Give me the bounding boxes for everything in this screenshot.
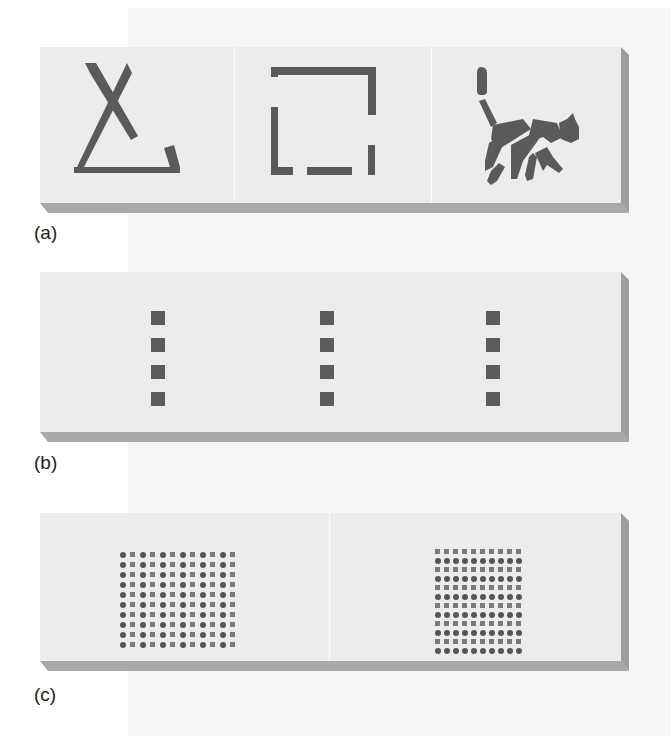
- dot-circle: [435, 630, 441, 636]
- dot-circle: [160, 602, 166, 608]
- dot-square: [489, 549, 494, 554]
- dot-circle: [180, 632, 186, 638]
- dot-circle: [516, 594, 522, 600]
- dot-circle: [200, 592, 206, 598]
- dot-grid-rows: [435, 549, 535, 669]
- dot-square: [507, 639, 512, 644]
- proximity-square: [151, 392, 165, 406]
- dot-square: [130, 642, 135, 647]
- dot-square: [507, 603, 512, 608]
- dot-circle: [140, 562, 146, 568]
- dot-circle: [507, 648, 513, 654]
- dot-circle: [516, 576, 522, 582]
- dot-circle: [140, 592, 146, 598]
- panel-c-bottom-edge: [40, 661, 629, 671]
- dot-square: [480, 639, 485, 644]
- dot-circle: [444, 612, 450, 618]
- dot-square: [516, 567, 521, 572]
- dot-square: [210, 552, 215, 557]
- dot-circle: [507, 576, 513, 582]
- panel-a-bottom-edge: [40, 203, 629, 213]
- dot-circle: [220, 602, 226, 608]
- dot-circle: [462, 630, 468, 636]
- dot-square: [150, 552, 155, 557]
- dot-circle: [471, 558, 477, 564]
- dot-square: [507, 621, 512, 626]
- panel-b-bottom-edge: [40, 432, 629, 442]
- dot-circle: [498, 576, 504, 582]
- panel-c-side-edge: [621, 513, 629, 671]
- dot-square: [435, 639, 440, 644]
- dot-circle: [120, 582, 126, 588]
- proximity-square: [486, 311, 500, 325]
- dot-circle: [220, 592, 226, 598]
- dot-square: [453, 585, 458, 590]
- proximity-square: [151, 365, 165, 379]
- dot-circle: [453, 594, 459, 600]
- dot-square: [516, 603, 521, 608]
- dot-circle: [471, 576, 477, 582]
- dot-circle: [220, 562, 226, 568]
- dot-circle: [444, 648, 450, 654]
- dot-square: [170, 552, 175, 557]
- proximity-square: [320, 338, 334, 352]
- dot-square: [210, 642, 215, 647]
- dot-circle: [489, 648, 495, 654]
- dot-square: [230, 562, 235, 567]
- dot-square: [190, 632, 195, 637]
- panel-c: [40, 513, 621, 661]
- dot-square: [462, 585, 467, 590]
- dot-circle: [140, 642, 146, 648]
- dot-square: [230, 602, 235, 607]
- dot-circle: [453, 558, 459, 564]
- dot-circle: [200, 582, 206, 588]
- dot-circle: [120, 622, 126, 628]
- dot-square: [130, 562, 135, 567]
- dot-square: [210, 632, 215, 637]
- broken-triangle-icon: [76, 61, 176, 181]
- dot-square: [210, 622, 215, 627]
- dot-circle: [489, 594, 495, 600]
- dot-square: [498, 567, 503, 572]
- dot-square: [480, 621, 485, 626]
- dot-square: [190, 602, 195, 607]
- dot-circle: [220, 572, 226, 578]
- dot-circle: [507, 558, 513, 564]
- panel-b-side-edge: [621, 272, 629, 442]
- proximity-square: [151, 311, 165, 325]
- dot-square: [489, 603, 494, 608]
- dot-circle: [435, 594, 441, 600]
- dot-circle: [462, 612, 468, 618]
- tile-divider: [431, 47, 432, 203]
- dot-circle: [180, 572, 186, 578]
- proximity-square: [151, 338, 165, 352]
- dot-circle: [200, 642, 206, 648]
- dot-circle: [160, 582, 166, 588]
- dot-circle: [480, 594, 486, 600]
- dot-circle: [480, 612, 486, 618]
- dot-square: [210, 562, 215, 567]
- dot-circle: [471, 612, 477, 618]
- dot-circle: [180, 602, 186, 608]
- dot-circle: [180, 612, 186, 618]
- dot-circle: [480, 630, 486, 636]
- dot-square: [150, 642, 155, 647]
- dot-square: [230, 612, 235, 617]
- dot-circle: [140, 552, 146, 558]
- dot-circle: [435, 648, 441, 654]
- dot-square: [150, 622, 155, 627]
- broken-square-icon: [271, 67, 381, 177]
- dot-circle: [435, 576, 441, 582]
- dot-circle: [140, 622, 146, 628]
- dot-square: [462, 639, 467, 644]
- dot-square: [498, 585, 503, 590]
- dot-circle: [480, 576, 486, 582]
- dot-square: [498, 603, 503, 608]
- dot-square: [130, 612, 135, 617]
- dot-square: [471, 603, 476, 608]
- dot-circle: [220, 552, 226, 558]
- dot-circle: [435, 558, 441, 564]
- dot-circle: [160, 562, 166, 568]
- dot-square: [130, 582, 135, 587]
- dot-square: [210, 592, 215, 597]
